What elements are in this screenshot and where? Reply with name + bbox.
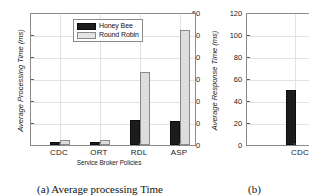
y-tick-mark	[31, 35, 34, 36]
gridline	[247, 36, 309, 37]
x-tick-label: ASP	[171, 148, 188, 157]
gridline	[247, 102, 309, 103]
plot-axes-b	[246, 13, 309, 146]
y-tick-mark	[31, 79, 34, 80]
y-axis-label-a: Average Processing Time (ms)	[16, 23, 25, 139]
gridline	[247, 58, 309, 59]
x-tick-mark	[179, 143, 180, 146]
x-tick-label: ORT	[90, 148, 107, 157]
bar-honeybee-rdl	[130, 120, 140, 145]
legend-item-honey-bee: Honey Bee	[77, 22, 139, 30]
y-tick-mark	[247, 123, 250, 124]
x-tick-label: RDL	[131, 148, 148, 157]
chart-panel-b: Average Response Time (ms) 120 100 80 60…	[200, 0, 309, 196]
plot-axes-a: Honey Bee Round Robin	[30, 13, 196, 146]
bar-roundrobin-rdl	[140, 72, 150, 145]
y-tick-label: 0	[196, 141, 242, 150]
x-axis-label-a: Service Broker Policies	[14, 159, 204, 166]
gridline	[31, 80, 195, 81]
y-tick-label: 100	[196, 31, 242, 40]
gridline	[31, 102, 195, 103]
y-tick-label: 40	[196, 97, 242, 106]
legend-label: Round Robin	[99, 31, 139, 39]
panel-caption-b: (b)	[200, 183, 309, 195]
x-tick-mark	[139, 143, 140, 146]
bar-roundrobin-cdc	[60, 140, 70, 145]
gridline-vertical	[60, 14, 61, 145]
x-tick-label: CDC	[291, 148, 309, 157]
y-tick-mark	[31, 101, 34, 102]
y-tick-label: 80	[196, 53, 242, 62]
y-tick-label: 120	[196, 9, 242, 18]
bar-honeybee-asp	[170, 121, 180, 145]
y-tick-label: 60	[196, 75, 242, 84]
y-tick-mark	[247, 57, 250, 58]
gridline	[247, 124, 309, 125]
y-tick-mark	[31, 57, 34, 58]
gridline	[31, 58, 195, 59]
x-tick-label: CDC	[50, 148, 68, 157]
bar-roundrobin-asp	[180, 30, 190, 145]
legend-swatch-icon	[77, 23, 96, 30]
y-tick-mark	[31, 123, 34, 124]
x-tick-mark	[99, 143, 100, 146]
gridline	[247, 80, 309, 81]
bar-honeybee-cdc-b	[286, 90, 296, 145]
bar-roundrobin-ort	[100, 140, 110, 145]
legend-item-round-robin: Round Robin	[77, 31, 139, 39]
x-tick-mark	[294, 143, 295, 146]
chart-legend: Honey Bee Round Robin	[73, 19, 143, 42]
y-tick-mark	[247, 79, 250, 80]
y-tick-mark	[247, 101, 250, 102]
x-tick-mark	[59, 143, 60, 146]
two-panel-figure: Average Processing Time (ms) 60 50 40 30…	[0, 0, 309, 196]
legend-label: Honey Bee	[99, 22, 133, 30]
panel-caption-a: (a) Average processing Time	[0, 183, 200, 195]
y-tick-label: 20	[196, 119, 242, 128]
y-tick-mark	[247, 35, 250, 36]
chart-panel-a: Average Processing Time (ms) 60 50 40 30…	[0, 0, 200, 196]
legend-swatch-icon	[77, 32, 96, 39]
